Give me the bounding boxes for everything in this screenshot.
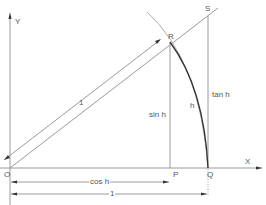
diagram-canvas [0,0,266,205]
trig-diagram: Y X O P Q R S 1 sin h tan h h cos h 1 [0,0,266,205]
x-axis-arrow-icon [256,167,263,170]
unit-arrow-left-icon [11,193,17,196]
arc-label: h [190,102,194,110]
tan-label: tan h [212,91,230,99]
line-os [10,8,218,168]
cos-label: cos h [89,178,110,186]
unit-length-label: 1 [109,190,115,198]
point-r-label: R [168,33,174,41]
unit-arrow-right-icon [201,193,207,196]
y-axis-arrow-icon [9,12,12,19]
point-p-label: P [173,171,178,179]
sin-label: sin h [149,111,166,119]
origin-label: O [4,171,10,179]
radius-label: 1 [79,99,83,107]
outer-arc [147,12,208,168]
x-axis-label: X [245,158,250,166]
cos-arrow-left-icon [11,181,17,184]
point-s-label: S [205,5,210,13]
arc-h [170,42,208,168]
y-axis-label: Y [15,18,20,26]
cos-arrow-right-icon [163,181,169,184]
point-q-label: Q [207,171,213,179]
